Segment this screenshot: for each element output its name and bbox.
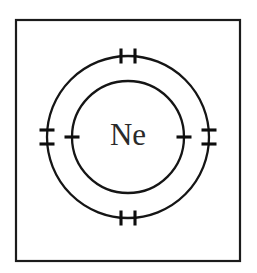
atomic-diagram-figure: Ne <box>0 0 257 273</box>
nucleus-element-symbol: Ne <box>110 117 146 152</box>
bohr-model-canvas: Ne <box>0 0 257 273</box>
